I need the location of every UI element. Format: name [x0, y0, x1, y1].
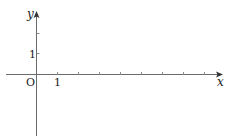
origin-label: O — [26, 76, 35, 89]
x-axis-label: x — [217, 75, 224, 89]
coordinate-plane: y x O 1 1 — [0, 0, 231, 139]
x-unit-label: 1 — [54, 76, 61, 89]
y-unit-label: 1 — [29, 48, 36, 61]
y-axis-label: y — [26, 7, 34, 21]
